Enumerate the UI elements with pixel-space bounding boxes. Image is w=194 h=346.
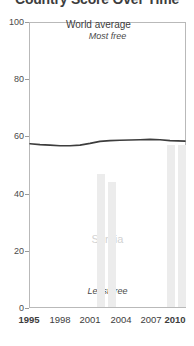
- chart-container: Country Score Over Time 100 80 60 40 20 …: [0, 0, 194, 346]
- chart-title: Country Score Over Time: [0, 0, 194, 7]
- plot-area: Most free Least free Serbia World averag…: [29, 22, 186, 308]
- world-average-label: World average: [66, 19, 131, 30]
- y-axis-label-40: 40: [0, 190, 24, 199]
- y-axis-label-60: 60: [0, 132, 24, 141]
- world-average-line: [30, 23, 185, 307]
- y-axis-label-0: 0: [0, 304, 24, 313]
- y-axis-label-100: 100: [0, 18, 24, 27]
- y-axis-label-80: 80: [0, 75, 24, 84]
- y-tick-0: [25, 308, 29, 309]
- y-axis-label-20: 20: [0, 247, 24, 256]
- x-axis-label-2010: 2010: [155, 314, 194, 325]
